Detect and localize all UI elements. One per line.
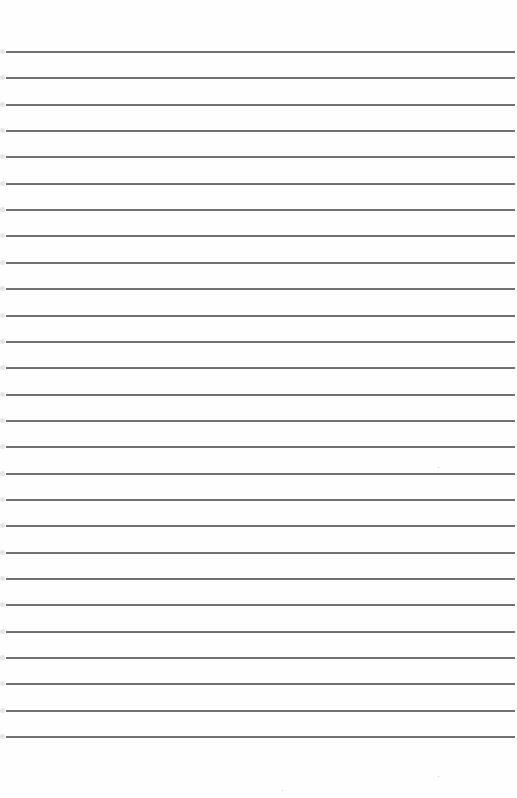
margin-mark <box>0 708 5 713</box>
margin-mark <box>0 392 5 397</box>
ruled-line <box>6 315 515 317</box>
margin-mark <box>0 471 5 476</box>
ruled-line <box>6 683 515 685</box>
margin-mark <box>0 523 5 528</box>
margin-mark <box>0 550 5 555</box>
margin-mark <box>0 102 5 107</box>
ruled-line <box>6 367 515 369</box>
ruled-line <box>6 262 515 264</box>
ruled-line <box>6 499 515 501</box>
ruled-line <box>6 473 515 475</box>
margin-mark <box>0 576 5 581</box>
ruled-line <box>6 420 515 422</box>
ruled-line <box>6 183 515 185</box>
ruled-line <box>6 156 515 158</box>
margin-mark <box>0 497 5 502</box>
margin-mark <box>0 655 5 660</box>
paper-speck <box>282 790 283 791</box>
paper-speck <box>438 467 439 468</box>
margin-mark <box>0 181 5 186</box>
margin-mark <box>0 49 5 54</box>
margin-mark <box>0 681 5 686</box>
ruled-line <box>6 552 515 554</box>
margin-mark <box>0 233 5 238</box>
margin-mark <box>0 629 5 634</box>
margin-mark <box>0 339 5 344</box>
ruled-line <box>6 51 515 53</box>
margin-mark <box>0 128 5 133</box>
margin-mark <box>0 207 5 212</box>
ruled-line <box>6 341 515 343</box>
margin-mark <box>0 734 5 739</box>
ruled-line <box>6 235 515 237</box>
ruled-line <box>6 77 515 79</box>
margin-mark <box>0 313 5 318</box>
ruled-line <box>6 631 515 633</box>
ruled-line <box>6 130 515 132</box>
margin-mark <box>0 365 5 370</box>
ruled-line <box>6 578 515 580</box>
ruled-line <box>6 288 515 290</box>
ruled-line <box>6 657 515 659</box>
ruled-line <box>6 209 515 211</box>
ruled-line <box>6 604 515 606</box>
margin-mark <box>0 286 5 291</box>
ruled-line <box>6 736 515 738</box>
ruled-line <box>6 710 515 712</box>
lined-paper-sheet <box>0 0 517 798</box>
margin-mark <box>0 418 5 423</box>
margin-mark <box>0 154 5 159</box>
margin-mark <box>0 260 5 265</box>
ruled-line <box>6 525 515 527</box>
ruled-line <box>6 394 515 396</box>
paper-speck <box>438 776 439 777</box>
margin-mark <box>0 444 5 449</box>
ruled-line <box>6 104 515 106</box>
margin-mark <box>0 602 5 607</box>
margin-mark <box>0 75 5 80</box>
ruled-line <box>6 446 515 448</box>
